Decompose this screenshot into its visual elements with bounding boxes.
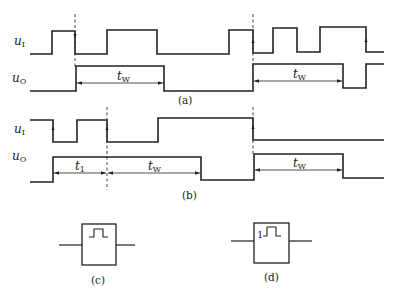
svg-text:tW: tW [117,69,131,84]
caption-b: (b) [182,189,197,201]
edge-arrow-icon [251,39,254,43]
dimension-tw: tW [254,67,342,83]
edge-arrow-icon [251,125,254,129]
label-ui-b: uI [14,122,25,137]
svg-text:tW: tW [293,156,307,171]
edge-arrow-icon [51,126,54,130]
edge-arrow-icon [364,38,367,42]
dimension-tw: tW [255,156,342,172]
arrowhead-icon [77,81,82,85]
arrowhead-icon [255,168,260,172]
svg-text:tW: tW [293,67,307,82]
edge-arrow-icon [105,126,108,130]
arrowhead-icon [337,168,342,172]
arrowhead-icon [337,79,342,83]
caption-c: (c) [91,274,105,286]
qualifier-one: 1 [257,229,263,240]
arrowhead-icon [254,79,259,83]
panel-b: uI uO t1 tW tW [12,107,384,201]
dimension-tw: tW [77,69,163,85]
edge-arrow-icon [73,34,76,38]
label-uo-a: uO [12,71,27,86]
panel-d-symbol: 1 (d) [231,223,312,283]
monostable-box [82,224,116,265]
label-uo-b: uO [12,149,27,164]
monostable-timing-figure: uI uO tW tW (a) uI uO [0,0,397,303]
waveform-ui-b [30,118,384,142]
dimension-tw: tW [108,159,200,175]
svg-text:t1: t1 [75,159,85,174]
arrowhead-icon [158,81,163,85]
caption-d: (d) [264,271,279,283]
panel-a: uI uO tW tW (a) [12,14,384,106]
arrowhead-icon [108,171,113,175]
waveform-ui-a [30,27,384,54]
label-ui-a: uI [14,34,25,49]
svg-text:tW: tW [148,159,162,174]
caption-a: (a) [178,94,192,106]
waveform-uo-a [30,64,384,91]
arrowhead-icon [101,171,106,175]
panel-c-symbol: (c) [59,224,135,286]
arrowhead-icon [195,171,200,175]
dimension-t1: t1 [54,159,106,175]
arrowhead-icon [54,171,59,175]
